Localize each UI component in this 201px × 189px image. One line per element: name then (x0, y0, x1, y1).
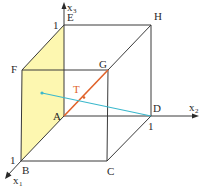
label-f: F (11, 63, 17, 75)
edge-hg (108, 25, 151, 70)
unit-x2: 1 (148, 120, 154, 132)
axis-label-x1-sub: 1 (19, 180, 23, 188)
point-t (83, 96, 86, 99)
axis-x3-arrowhead (62, 2, 67, 9)
label-d: D (153, 102, 161, 114)
edge-dc (107, 116, 151, 161)
cube-diagram: E H F G A D B C T 1 1 1 x 3 x 2 x 1 (0, 0, 201, 189)
unit-x3: 1 (53, 19, 59, 31)
label-a: A (53, 110, 61, 122)
unit-x1: 1 (10, 154, 16, 166)
label-t: T (73, 83, 80, 95)
edge-gc (107, 70, 108, 161)
axis-label-x2-sub: 2 (195, 107, 199, 115)
segment-ag (64, 70, 108, 116)
label-g: G (99, 58, 107, 70)
label-b: B (22, 164, 29, 176)
label-c: C (107, 165, 114, 177)
point-start (40, 91, 43, 94)
axis-label-x3-sub: 3 (73, 7, 77, 15)
label-h: H (154, 10, 162, 22)
